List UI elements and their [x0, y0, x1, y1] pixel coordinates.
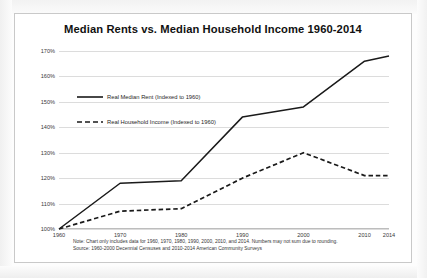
legend-label-income: Real Household Income (Indexed to 1960) [107, 119, 216, 125]
paper-edge-top [0, 0, 427, 14]
gridline [59, 229, 389, 230]
legend-item-income: Real Household Income (Indexed to 1960) [77, 115, 216, 128]
paper-edge-right [417, 0, 427, 278]
y-axis-tick-label: 120% [41, 175, 55, 181]
plot-area: 100%110%120%130%140%150%160%170% 1960197… [59, 51, 389, 229]
series-line [59, 56, 389, 229]
y-axis-tick-label: 140% [41, 124, 55, 130]
paper-edge-bottom [0, 266, 427, 278]
legend-dashed-line-icon [77, 118, 103, 126]
series-lines [59, 51, 389, 229]
y-axis-tick-label: 170% [41, 48, 55, 54]
y-axis-tick-label: 160% [41, 73, 55, 79]
y-axis-tick-label: 110% [41, 201, 55, 207]
chart-frame: Median Rents vs. Median Household Income… [14, 13, 412, 263]
chart-page: Median Rents vs. Median Household Income… [0, 0, 427, 278]
footnote-source: Source: 1960-2000 Decennial Censuses and… [73, 245, 403, 252]
chart-title: Median Rents vs. Median Household Income… [15, 23, 411, 35]
legend-item-rent: Real Median Rent (Indexed to 1960) [77, 90, 216, 103]
x-axis-tick-label: 1960 [53, 232, 65, 238]
y-axis-tick-label: 150% [41, 99, 55, 105]
footnote-note: Note: Chart only includes data for 1960,… [73, 238, 403, 245]
chart-legend: Real Median Rent (Indexed to 1960) Real … [77, 90, 216, 140]
chart-footnotes: Note: Chart only includes data for 1960,… [73, 238, 403, 252]
legend-solid-line-icon [77, 93, 103, 101]
legend-label-rent: Real Median Rent (Indexed to 1960) [107, 94, 200, 100]
series-line [59, 153, 389, 229]
paper-edge-left [0, 0, 12, 278]
y-axis-tick-label: 130% [41, 150, 55, 156]
